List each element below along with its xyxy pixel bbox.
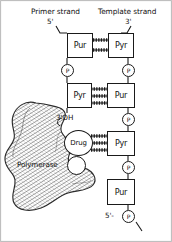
template-strand-title: Template strand: [98, 8, 156, 15]
polymerase-blob: [5, 102, 95, 210]
phosphate-template-3: P: [122, 161, 135, 174]
dna-polymerase-diagram: Primer strand Template strand 5' 3' 3'OH…: [0, 0, 172, 242]
base-box-template-1: Pyr: [108, 33, 134, 58]
hbond-group-1: [93, 40, 108, 50]
polymerase-label: Polymerase: [17, 161, 58, 168]
hbond-group-2: [91, 89, 107, 103]
primer-5prime-label: 5': [47, 18, 53, 25]
hbond-group-3: [91, 136, 107, 150]
template-5prime-label: 5'-: [105, 212, 114, 219]
drug-molecule: Drug: [64, 130, 93, 156]
primer-strand-title: Primer strand: [31, 8, 80, 15]
primer-3prime-oh-label: 3'OH: [56, 114, 73, 121]
base-box-template-3: Pyr: [107, 131, 135, 156]
phosphate-template-4: P: [122, 210, 135, 223]
base-box-primer-1: Pur: [67, 33, 93, 58]
template-3prime-label: 3': [125, 18, 131, 25]
base-box-template-4: Pur: [107, 179, 135, 205]
base-box-template-2: Pur: [107, 83, 135, 108]
base-box-primer-2: Pyr: [67, 83, 92, 108]
phosphate-primer-1: P: [61, 64, 74, 77]
polymerase-active-site-circle: [67, 156, 86, 175]
phosphate-template-2: P: [122, 113, 135, 126]
phosphate-template-1: P: [122, 64, 135, 77]
